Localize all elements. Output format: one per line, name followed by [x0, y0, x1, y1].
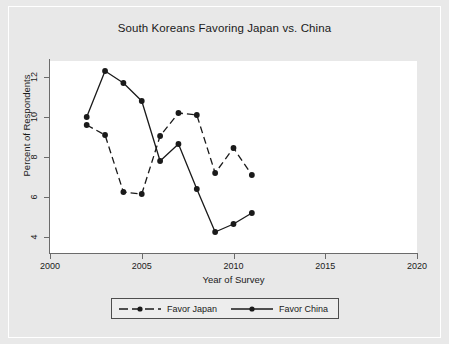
data-point	[84, 122, 90, 128]
y-axis-tick	[44, 117, 49, 118]
legend-label-favor-china: Favor China	[279, 304, 328, 314]
y-axis-tick	[44, 237, 49, 238]
data-point	[231, 221, 237, 227]
x-axis-tick-label: 2015	[305, 261, 345, 271]
data-point	[121, 189, 127, 195]
series-line	[87, 113, 252, 194]
data-point	[212, 229, 218, 235]
data-point	[121, 80, 127, 86]
x-axis-tick-label: 2020	[397, 261, 437, 271]
legend-swatch-solid-icon	[230, 303, 274, 315]
x-axis-tick	[142, 254, 143, 259]
legend-item-favor-china[interactable]: Favor China	[230, 299, 328, 318]
x-axis-tick-label: 2000	[30, 261, 70, 271]
data-point	[157, 158, 163, 164]
series-favor-china	[84, 68, 255, 235]
y-axis-tick-label: 4	[26, 230, 42, 244]
plot-svg	[50, 61, 417, 253]
y-axis-line	[49, 59, 50, 254]
legend-item-favor-japan[interactable]: Favor Japan	[118, 299, 217, 318]
data-point	[176, 110, 182, 116]
y-axis-tick	[44, 77, 49, 78]
legend-label-favor-japan: Favor Japan	[167, 304, 217, 314]
plot-area	[50, 61, 417, 253]
chart-title: South Koreans Favoring Japan vs. China	[0, 22, 449, 34]
data-point	[249, 210, 255, 216]
x-axis-tick	[417, 254, 418, 259]
data-point	[212, 170, 218, 176]
chart-legend: Favor Japan Favor China	[111, 298, 339, 319]
data-point	[249, 172, 255, 178]
data-point	[102, 132, 108, 138]
data-point	[84, 114, 90, 120]
data-point	[231, 145, 237, 151]
x-axis-tick-label: 2010	[214, 261, 254, 271]
data-point	[176, 141, 182, 147]
series-line	[87, 71, 252, 232]
data-point	[157, 133, 163, 139]
chart-figure: South Koreans Favoring Japan vs. China 4…	[0, 0, 449, 344]
data-point	[139, 98, 145, 104]
x-axis-tick-label: 2005	[122, 261, 162, 271]
x-axis-tick	[234, 254, 235, 259]
data-point	[194, 186, 200, 192]
data-point	[102, 68, 108, 74]
y-axis-tick	[44, 157, 49, 158]
data-point	[139, 191, 145, 197]
series-favor-japan	[84, 110, 255, 197]
x-axis-title: Year of Survey	[50, 274, 417, 285]
x-axis-tick	[50, 254, 51, 259]
y-axis-title: Percent of Respondents	[21, 56, 32, 196]
legend-swatch-dashed-icon	[118, 303, 162, 315]
data-point	[194, 112, 200, 118]
x-axis-tick	[325, 254, 326, 259]
y-axis-tick	[44, 197, 49, 198]
series-layer	[84, 68, 255, 235]
